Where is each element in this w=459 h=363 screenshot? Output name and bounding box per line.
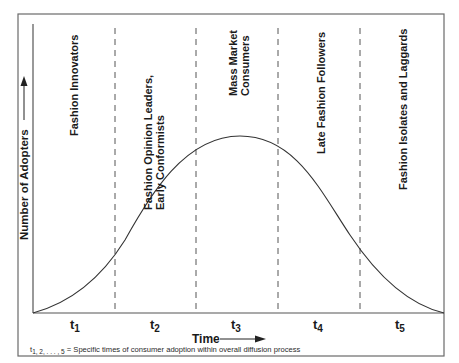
footnote: t1, 2, . . . , 5 = Specific times of con…: [30, 345, 300, 355]
time-tick-5: t5: [395, 317, 405, 334]
stage-label-2-line-1: Fashion Opinion Leaders,: [142, 75, 154, 210]
stage-label-1: Fashion Innovators: [68, 35, 80, 136]
x-axis-arrow-head-icon: [255, 336, 266, 343]
time-tick-labels: t1 t2 t3 t4 t5: [70, 317, 405, 334]
y-axis-label: Number of Adopters: [18, 129, 30, 240]
y-axis-arrow-head-icon: [21, 76, 28, 86]
stage-label-3-line-2: Consumers: [239, 35, 251, 96]
stage-label-5: Fashion Isolates and Laggards: [397, 29, 409, 190]
time-tick-2: t2: [150, 317, 160, 334]
time-tick-4: t4: [313, 317, 323, 334]
time-tick-1: t1: [70, 317, 80, 334]
x-axis-label: Time: [192, 332, 220, 346]
stage-label-2-line-2: Early Conformists: [154, 115, 166, 210]
stage-label-4: Late Fashion Followers: [315, 32, 327, 154]
time-tick-3: t3: [231, 317, 241, 334]
diffusion-curve-diagram: Number of Adopters Fashion Innovators Fa…: [0, 0, 459, 363]
adoption-curve: [33, 136, 444, 313]
stage-label-3-line-1: Mass Market: [227, 30, 239, 96]
